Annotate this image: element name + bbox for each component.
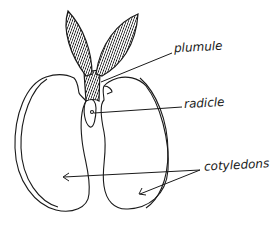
left-cotyledon xyxy=(15,75,89,211)
right-leaf xyxy=(96,14,138,76)
left-leaf xyxy=(66,11,92,76)
seed-diagram xyxy=(0,0,271,227)
cotyledon-leader-left xyxy=(64,170,200,177)
radicle-leader xyxy=(94,107,182,113)
plumule-label: plumule xyxy=(174,39,223,56)
leader-lines xyxy=(63,53,200,195)
radicle-label: radicle xyxy=(184,95,225,111)
cotyledon-leader-right xyxy=(140,170,200,194)
right-cotyledon xyxy=(101,77,168,209)
